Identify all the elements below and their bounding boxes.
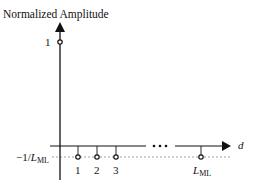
y-axis-label: Normalized Amplitude bbox=[3, 8, 109, 20]
x-tick-3: 3 bbox=[113, 164, 119, 176]
x-tick-1: 1 bbox=[75, 164, 81, 176]
x-tick-LML: LML bbox=[193, 164, 211, 180]
x-axis-arrow-icon bbox=[222, 141, 231, 151]
y-tick-1: 1 bbox=[45, 36, 51, 48]
y-tick-neg: −1/LML bbox=[16, 151, 49, 167]
stem-marker-3 bbox=[114, 155, 118, 159]
stem-marker-0 bbox=[58, 40, 62, 44]
stem-marker-1 bbox=[76, 155, 80, 159]
stem-marker-LML bbox=[199, 155, 203, 159]
stem-marker-2 bbox=[95, 155, 99, 159]
x-axis-label: d bbox=[238, 139, 244, 151]
y-axis-arrow-icon bbox=[55, 22, 65, 32]
x-tick-2: 2 bbox=[94, 164, 100, 176]
